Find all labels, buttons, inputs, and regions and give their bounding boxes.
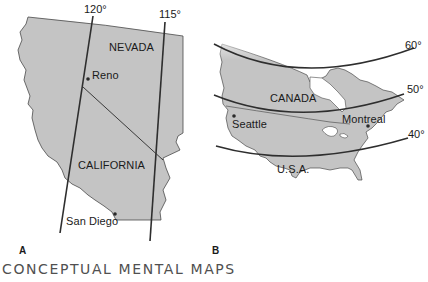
parallel-50-label: 50° bbox=[407, 84, 424, 95]
map-b bbox=[214, 30, 414, 180]
nevada-label: NEVADA bbox=[109, 42, 154, 53]
usa-label: U.S.A. bbox=[277, 164, 309, 175]
maps-drawing bbox=[0, 0, 428, 282]
figure-caption: CONCEPTUAL MENTAL MAPS bbox=[2, 261, 236, 277]
meridian-115-label: 115° bbox=[159, 9, 181, 20]
parallel-60-label: 60° bbox=[405, 40, 422, 51]
reno-label: Reno bbox=[92, 70, 119, 81]
panel-a-label: A bbox=[19, 246, 26, 256]
canada-label: CANADA bbox=[270, 93, 316, 104]
meridian-120-label: 120° bbox=[84, 4, 107, 15]
reno-dot bbox=[86, 77, 90, 81]
montreal-label: Montreal bbox=[342, 114, 386, 125]
seattle-label: Seattle bbox=[232, 119, 267, 130]
figure: 120° 115° NEVADA Reno CALIFORNIA San Die… bbox=[0, 0, 428, 282]
san-diego-label: San Diego bbox=[66, 216, 118, 227]
map-a bbox=[18, 16, 183, 241]
parallel-40-label: 40° bbox=[408, 129, 425, 140]
california-label: CALIFORNIA bbox=[78, 160, 145, 171]
panel-b-label: B bbox=[212, 246, 219, 256]
